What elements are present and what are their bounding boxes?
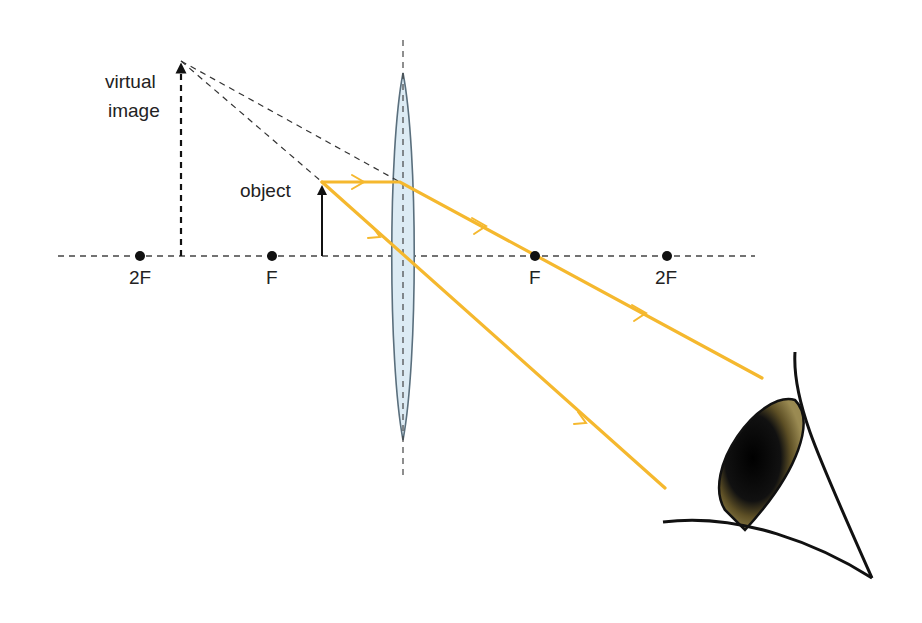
left-f-label: F xyxy=(266,267,278,288)
left-f-point xyxy=(267,251,277,261)
virtual-image-label-line2: image xyxy=(108,100,160,121)
light-rays xyxy=(322,175,762,488)
right-f-point xyxy=(530,251,540,261)
eye-icon xyxy=(663,352,872,578)
construction-line-2 xyxy=(181,61,400,182)
right-2f-label: 2F xyxy=(655,267,677,288)
virtual-image-label-line1: virtual xyxy=(105,71,156,92)
object-label: object xyxy=(240,180,291,201)
construction-line-1 xyxy=(181,61,322,182)
ray-diagram: virtual image object 2F F F 2F xyxy=(0,0,922,623)
left-2f-point xyxy=(135,251,145,261)
right-2f-point xyxy=(662,251,672,261)
left-2f-label: 2F xyxy=(129,267,151,288)
right-f-label: F xyxy=(529,267,541,288)
